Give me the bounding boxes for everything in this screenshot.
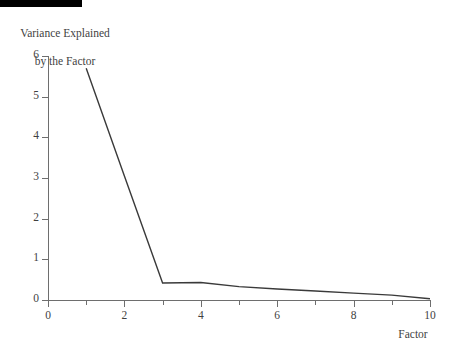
y-axis-tick-label: 0: [17, 292, 39, 304]
x-axis-minor-tick: [239, 301, 240, 305]
x-axis-minor-tick: [163, 301, 164, 305]
x-axis-minor-tick: [392, 301, 393, 305]
top-black-rule: [0, 0, 82, 7]
y-axis-tick-label: 1: [17, 251, 39, 263]
x-axis-tick-label: 0: [36, 309, 60, 321]
x-axis-minor-tick: [86, 301, 87, 305]
x-axis-tick-label: 10: [418, 309, 442, 321]
x-axis-tick-label: 4: [189, 309, 213, 321]
y-axis-tick-label: 6: [17, 48, 39, 60]
x-axis-major-tick: [430, 301, 431, 307]
x-axis-tick-label: 6: [265, 309, 289, 321]
x-axis-major-tick: [277, 301, 278, 307]
x-axis-major-tick: [354, 301, 355, 307]
scree-plot-svg: [48, 56, 430, 301]
x-axis-tick-label: 8: [342, 309, 366, 321]
y-axis-tick-label: 2: [17, 211, 39, 223]
y-axis-tick-label: 5: [17, 89, 39, 101]
y-axis-title-line-1: Variance Explained: [0, 26, 130, 40]
y-axis-tick-label: 3: [17, 170, 39, 182]
x-axis-major-tick: [201, 301, 202, 307]
plot-area: [48, 56, 430, 300]
variance-line: [86, 68, 430, 299]
x-axis-tick-label: 2: [112, 309, 136, 321]
x-axis-major-tick: [124, 301, 125, 307]
x-axis-minor-tick: [315, 301, 316, 305]
x-axis-major-tick: [48, 301, 49, 307]
y-axis-tick-label: 4: [17, 129, 39, 141]
x-axis-title: Factor: [382, 328, 444, 340]
